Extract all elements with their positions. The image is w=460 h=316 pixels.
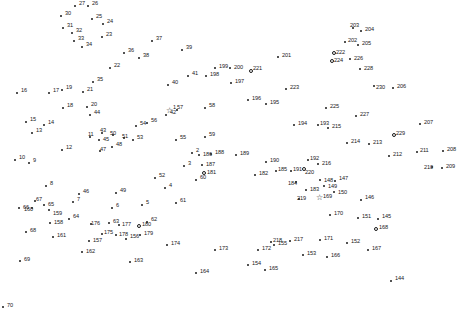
dot-number-label: 9 [33,158,36,164]
dot-icon [78,193,81,196]
dot-number-label: 48 [116,142,122,148]
dot-number-label: 169 [323,194,332,200]
dot-icon [166,244,169,247]
dot-icon [132,139,135,142]
connect-the-dots-canvas: ☆123456789101112131415161718192021222324… [0,0,460,316]
dot-number-label: 65 [48,202,54,208]
dot-number-label: 158 [54,220,63,226]
dot-number-label: 182 [259,171,268,177]
dot-icon [118,224,121,227]
dot-icon [52,236,55,239]
dot-number-label: 160 [24,207,33,213]
dot-number-label: 60 [200,175,206,181]
dot-icon [81,46,84,49]
dot-number-label: 7 [77,197,80,203]
dot-number-label: 225 [330,104,339,110]
dot-icon [319,179,322,182]
dot-number-label: 23 [106,32,112,38]
dot-number-label: 31 [67,23,73,29]
dot-number-label: 70 [7,303,13,309]
dot-number-label: 10 [19,155,25,161]
dot-icon [74,5,77,8]
dot-icon [293,124,296,127]
dot-icon [60,15,63,18]
dot-number-label: 181 [207,170,216,176]
dot-number-label: 147 [339,176,348,182]
dot-number-label: 46 [83,189,89,195]
star-dot-icon: ☆ [316,194,323,201]
dot-icon [235,154,238,157]
dot-number-label: 3 [188,161,191,167]
dot-number-label: 163 [134,258,143,264]
dot-icon [16,92,19,95]
dot-icon [14,159,17,162]
dot-icon [265,103,268,106]
dot-icon [289,240,292,243]
dot-number-label: 198 [210,72,219,78]
dot-number-label: 180 [142,222,151,228]
dot-number-label: 220 [305,170,314,176]
dot-icon [390,280,393,283]
dot-icon [45,185,48,188]
dot-number-label: 203 [350,23,359,29]
dot-number-label: 43 [100,128,106,134]
dot-icon [325,107,328,110]
dot-icon [43,204,46,207]
dot-icon [305,189,308,192]
dot-icon [25,231,28,234]
dot-icon [317,163,320,166]
dot-icon [360,199,363,202]
dot-number-label: 32 [76,28,82,34]
dot-icon [109,67,112,70]
dot-icon [257,249,260,252]
dot-icon [307,159,310,162]
dot-number-label: 176 [91,221,100,227]
dot-number-label: 53 [137,135,143,141]
dot-icon [198,154,201,157]
dot-number-label: 2 [196,148,199,154]
dot-number-label: 5 [146,200,149,206]
dot-icon [101,36,104,39]
dot-number-label: 162 [86,249,95,255]
dot-icon [334,180,337,183]
dot-icon [81,251,84,254]
dot-icon [204,107,207,110]
dot-number-label: 26 [92,1,98,7]
dot-number-label: 168 [379,225,388,231]
dot-icon [265,161,268,164]
dot-icon [270,241,273,244]
dot-icon [302,254,305,257]
dot-number-label: 64 [73,214,79,220]
dot-icon [175,139,178,142]
dot-number-label: 149 [328,184,337,190]
dot-number-label: 15 [30,117,36,123]
dot-icon [115,234,118,237]
dot-number-label: 212 [393,152,402,158]
dot-number-label: 184 [288,181,297,187]
dot-number-label: 42 [170,110,176,116]
dot-icon [146,122,149,125]
dot-icon [73,40,76,43]
dot-number-label: 206 [397,84,406,90]
dot-icon [139,234,142,237]
dot-number-label: 146 [365,195,374,201]
dot-icon [254,174,257,177]
dot-icon [101,233,104,236]
dot-number-label: 196 [252,96,261,102]
dot-icon [360,30,363,33]
dot-number-label: 40 [172,80,178,86]
dot-icon [167,84,170,87]
dot-number-label: 4 [169,183,172,189]
dot-number-label: 187 [206,162,215,168]
dot-icon [357,217,360,220]
dot-icon [187,75,190,78]
dot-number-label: 38 [143,53,149,59]
dot-number-label: 153 [307,251,316,257]
dot-icon [333,191,336,194]
dot-icon [205,75,208,78]
dot-number-label: 178 [119,232,128,238]
dot-icon [359,68,362,71]
dot-number-label: 174 [171,241,180,247]
dot-number-label: 157 [93,238,102,244]
dot-number-label: 51 [122,134,128,140]
